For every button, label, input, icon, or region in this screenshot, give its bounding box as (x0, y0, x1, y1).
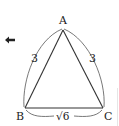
side-label-ac: 3 (89, 52, 96, 65)
brace-bc-left (26, 110, 54, 116)
edge-ab (25, 30, 63, 108)
brace-bc-right (74, 110, 102, 116)
left-arrow-icon[interactable] (5, 37, 15, 44)
side-label-bc: √6 (56, 110, 70, 122)
vertex-label-b: B (16, 110, 24, 123)
brace-ac (64, 29, 104, 107)
brace-ab (24, 29, 62, 107)
edge-ac (63, 30, 103, 108)
vertex-label-a: A (58, 14, 68, 27)
right-border (117, 88, 118, 126)
triangle-diagram: A B C 3 3 √6 (0, 0, 119, 126)
vertex-label-c: C (104, 110, 112, 123)
side-label-ab: 3 (31, 52, 38, 65)
